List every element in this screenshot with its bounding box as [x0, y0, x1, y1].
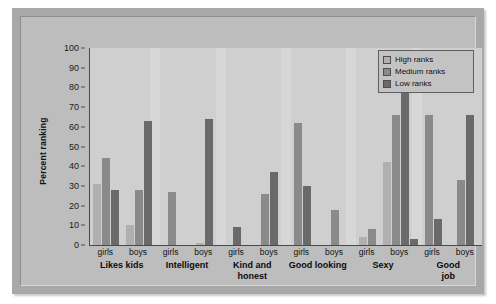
y-axis-tick-label: 60: [69, 122, 79, 132]
legend-label: High ranks: [395, 55, 433, 64]
bar: [383, 162, 391, 245]
bar: [196, 243, 204, 245]
bar: [126, 225, 134, 245]
chart-figure: Percent ranking 0102030405060708090100 g…: [0, 0, 496, 304]
x-axis-subgroup-label: girls: [228, 247, 244, 257]
bar: [410, 239, 418, 245]
y-axis-tick-label: 80: [69, 82, 79, 92]
bar: [102, 158, 110, 245]
bar: [392, 115, 400, 245]
bar: [331, 210, 339, 245]
bar: [261, 194, 269, 245]
bar: [466, 115, 474, 245]
bar: [457, 180, 465, 245]
legend-item: Low ranks: [383, 78, 469, 89]
x-axis-subgroup-label: boys: [260, 247, 278, 257]
x-axis-subgroup-label: boys: [390, 247, 408, 257]
legend-label: Low ranks: [395, 79, 431, 88]
y-axis-tick-label: 20: [69, 201, 79, 211]
x-axis-labels: girlsboysLikes kidsgirlsboysIntelligentg…: [89, 247, 481, 299]
x-axis-group-label: Good looking: [289, 260, 347, 271]
bar: [294, 123, 302, 245]
chart-legend: High ranksMedium ranksLow ranks: [378, 50, 474, 93]
x-axis-subgroup-label: girls: [424, 247, 440, 257]
y-axis-tick-mark: [81, 48, 85, 49]
x-axis-subgroup-label: boys: [194, 247, 212, 257]
x-axis-subgroup-label: girls: [359, 247, 375, 257]
y-axis-tick-label: 70: [69, 102, 79, 112]
y-axis-tick-mark: [81, 166, 85, 167]
y-axis-tick-mark: [81, 245, 85, 246]
y-axis-tick-mark: [81, 146, 85, 147]
y-axis-tick-mark: [81, 225, 85, 226]
y-axis: 0102030405060708090100: [21, 37, 89, 257]
bar: [144, 121, 152, 245]
x-axis-group-label: Kind and honest: [233, 260, 272, 281]
y-axis-tick-label: 0: [74, 240, 79, 250]
y-axis-tick-mark: [81, 185, 85, 186]
x-axis-group-label: Sexy: [372, 260, 393, 271]
bar: [425, 115, 433, 245]
x-axis-group-label: Good job: [432, 260, 465, 281]
y-axis-tick-label: 10: [69, 220, 79, 230]
x-axis-subgroup-label: girls: [98, 247, 114, 257]
bar: [205, 119, 213, 245]
bar: [401, 83, 409, 245]
x-axis-subgroup-label: girls: [163, 247, 179, 257]
y-axis-tick-mark: [81, 87, 85, 88]
plot-band: [346, 48, 356, 245]
legend-item: High ranks: [383, 54, 469, 65]
figure-frame-inner: Percent ranking 0102030405060708090100 g…: [20, 16, 476, 286]
figure-frame-outer: Percent ranking 0102030405060708090100 g…: [12, 8, 484, 294]
y-axis-tick-mark: [81, 126, 85, 127]
y-axis-tick-mark: [81, 107, 85, 108]
y-axis-tick-label: 30: [69, 181, 79, 191]
x-axis-group-label: Intelligent: [166, 260, 209, 271]
plot-band: [216, 48, 226, 245]
legend-swatch-icon: [383, 56, 391, 64]
y-axis-tick-label: 90: [69, 63, 79, 73]
bar: [303, 186, 311, 245]
plot-band: [281, 48, 291, 245]
x-axis-subgroup-label: boys: [325, 247, 343, 257]
y-axis-tick-mark: [81, 205, 85, 206]
legend-swatch-icon: [383, 68, 391, 76]
legend-swatch-icon: [383, 80, 391, 88]
bar: [111, 190, 119, 245]
y-axis-tick-mark: [81, 67, 85, 68]
y-axis-tick-label: 40: [69, 161, 79, 171]
y-axis-tick-label: 100: [64, 43, 79, 53]
bar: [270, 172, 278, 245]
bar: [168, 192, 176, 245]
bar: [93, 184, 101, 245]
bar: [233, 227, 241, 245]
bar: [368, 229, 376, 245]
legend-item: Medium ranks: [383, 66, 469, 77]
bar: [359, 237, 367, 245]
y-axis-tick-label: 50: [69, 142, 79, 152]
legend-label: Medium ranks: [395, 67, 445, 76]
bar: [434, 219, 442, 245]
x-axis-subgroup-label: boys: [456, 247, 474, 257]
x-axis-subgroup-label: boys: [129, 247, 147, 257]
x-axis-group-label: Likes kids: [100, 260, 144, 271]
bar: [135, 190, 143, 245]
x-axis-subgroup-label: girls: [294, 247, 310, 257]
